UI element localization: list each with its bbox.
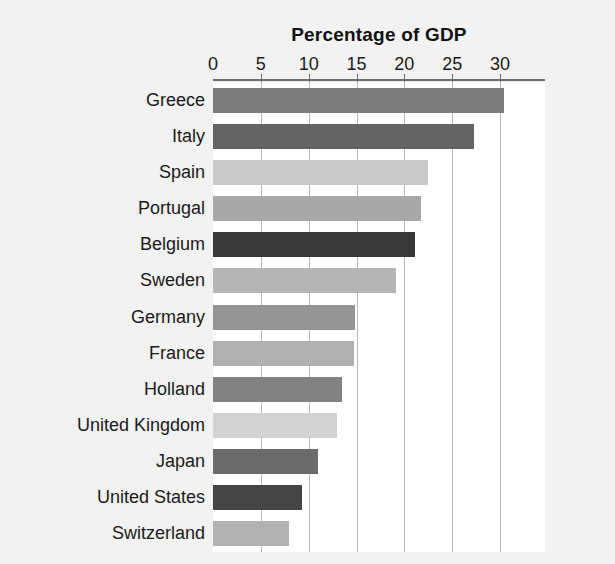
x-tick-label-10: 10 <box>299 54 319 75</box>
y-axis-label: Greece <box>0 90 205 111</box>
bar <box>213 485 302 510</box>
x-tick-label-25: 25 <box>442 54 462 75</box>
x-tick-mark-10 <box>309 74 310 82</box>
gridline-15 <box>357 82 358 552</box>
y-axis-label: Japan <box>0 451 205 472</box>
x-tick-label-15: 15 <box>347 54 367 75</box>
x-tick-mark-20 <box>404 74 405 82</box>
x-axis-tick-label-row: 051015202530 <box>213 54 545 78</box>
bar <box>213 341 354 366</box>
y-axis-label: Spain <box>0 162 205 183</box>
x-tick-label-5: 5 <box>256 54 266 75</box>
y-axis-label: Germany <box>0 307 205 328</box>
x-tick-mark-25 <box>452 74 453 82</box>
bar <box>213 521 289 546</box>
plot-area <box>213 82 545 552</box>
bar-chart-figure: Percentage of GDP 051015202530 GreeceIta… <box>0 0 615 564</box>
gridline-25 <box>452 82 453 552</box>
bar <box>213 88 504 113</box>
y-axis-label: France <box>0 343 205 364</box>
bar <box>213 449 318 474</box>
gridline-20 <box>404 82 405 552</box>
y-axis-label: United States <box>0 487 205 508</box>
bar <box>213 232 415 257</box>
x-tick-label-20: 20 <box>394 54 414 75</box>
y-axis-label: Switzerland <box>0 523 205 544</box>
bar <box>213 413 337 438</box>
bar <box>213 196 421 221</box>
bar <box>213 160 428 185</box>
bar <box>213 268 396 293</box>
chart-title: Percentage of GDP <box>213 24 545 46</box>
y-axis-label: Holland <box>0 379 205 400</box>
y-axis-label: Portugal <box>0 198 205 219</box>
bar <box>213 124 474 149</box>
y-axis-label: Sweden <box>0 270 205 291</box>
x-axis-rule <box>213 79 545 81</box>
y-axis-label: Italy <box>0 126 205 147</box>
gridline-30 <box>500 82 501 552</box>
x-tick-mark-15 <box>357 74 358 82</box>
x-tick-mark-30 <box>500 74 501 82</box>
y-axis-label: Belgium <box>0 234 205 255</box>
x-tick-mark-5 <box>261 74 262 82</box>
bar <box>213 305 355 330</box>
bar <box>213 377 342 402</box>
y-axis-label: United Kingdom <box>0 415 205 436</box>
x-tick-label-30: 30 <box>490 54 510 75</box>
y-axis-category-labels: GreeceItalySpainPortugalBelgiumSwedenGer… <box>0 82 205 552</box>
x-tick-label-0: 0 <box>208 54 218 75</box>
